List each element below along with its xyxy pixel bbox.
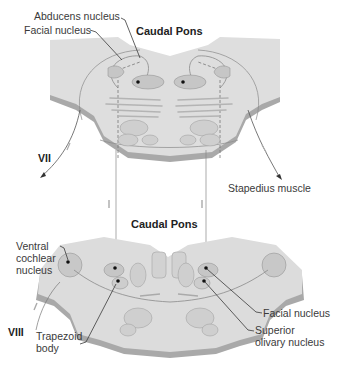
- spinal-trigeminal-right: [178, 263, 194, 287]
- ventral-cochlear-nucleus-right: [262, 253, 286, 277]
- nerve-vii-right: [248, 110, 280, 178]
- label-superior-olivary-nucleus: Superior olivary nucleus: [255, 324, 324, 348]
- marker-dot: [116, 279, 120, 283]
- facial-nucleus-left: [104, 263, 124, 277]
- label-nerve-viii: VIII: [8, 326, 24, 338]
- nerve-vii-left: [42, 110, 80, 176]
- label-ventral-cochlear-nucleus: Ventral cochlear nucleus: [16, 240, 56, 276]
- top-pons-section: [40, 18, 282, 180]
- marker-dot: [136, 80, 140, 84]
- arrowhead-icon: [276, 174, 282, 180]
- title-top-caudal-pons: Caudal Pons: [136, 25, 203, 37]
- abducens-nucleus-right: [174, 75, 206, 89]
- marker-dot: [181, 80, 185, 84]
- label-stapedius-muscle: Stapedius muscle: [228, 182, 311, 194]
- label-nerve-vii: VII: [38, 152, 51, 164]
- label-facial-nucleus-top: Facial nucleus: [24, 24, 91, 36]
- midline-structure: [152, 252, 166, 278]
- label-abducens-nucleus: Abducens nucleus: [34, 10, 120, 22]
- fiber-direction-tick: [34, 303, 37, 310]
- superior-olivary-right: [194, 277, 210, 289]
- label-trapezoid-body: Trapezoid body: [36, 330, 82, 354]
- title-bottom-caudal-pons: Caudal Pons: [131, 218, 198, 230]
- spinal-trigeminal-left: [130, 263, 146, 287]
- label-facial-nucleus-bottom: Facial nucleus: [263, 307, 330, 319]
- marker-dot: [66, 260, 70, 264]
- top-section-tissue: [50, 37, 280, 156]
- marker-dot: [113, 266, 117, 270]
